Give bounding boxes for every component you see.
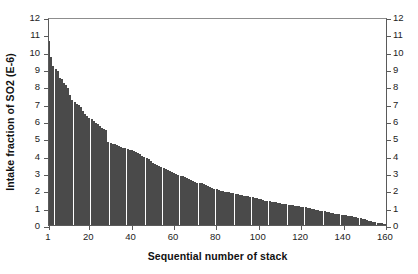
y-axis-left-tick-label: 7 — [2, 100, 40, 110]
x-axis-tick-label: 160 — [377, 232, 393, 242]
y-axis-right-tick — [386, 54, 391, 55]
y-axis-right-tick — [386, 192, 391, 193]
y-axis-right-tick — [386, 140, 391, 141]
y-axis-right-tick-label: 4 — [393, 152, 398, 162]
y-axis-right-tick-label: 11 — [393, 30, 403, 40]
bars-layer — [49, 19, 386, 225]
y-axis-right-tick-label: 5 — [393, 134, 398, 144]
y-axis-right-tick-label: 10 — [393, 48, 404, 58]
y-axis-right-tick-label: 12 — [393, 13, 404, 23]
y-axis-right-tick — [386, 19, 391, 20]
y-axis-right-tick — [386, 71, 391, 72]
y-axis-left-tick — [44, 123, 49, 124]
x-axis-tick — [132, 225, 133, 230]
x-axis-tick-label: 1 — [45, 232, 50, 242]
x-axis-title: Sequential number of stack — [48, 250, 387, 262]
y-axis-right-tick — [386, 210, 391, 211]
y-axis-left-tick-label: 6 — [2, 117, 40, 127]
y-axis-left-tick — [44, 36, 49, 37]
x-axis-tick-label: 120 — [292, 232, 308, 242]
y-axis-right-tick — [386, 175, 391, 176]
x-axis-tick — [89, 225, 90, 230]
y-axis-right-tick — [386, 123, 391, 124]
x-axis-tick — [174, 225, 175, 230]
y-axis-right-tick-label: 1 — [393, 204, 398, 214]
y-axis-right-tick-label: 2 — [393, 186, 398, 196]
x-axis-tick — [216, 225, 217, 230]
y-axis-left-tick-label: 8 — [2, 82, 40, 92]
y-axis-right-tick-label: 3 — [393, 169, 398, 179]
y-axis-left-tick-label: 11 — [2, 30, 40, 40]
y-axis-left-tick — [44, 140, 49, 141]
y-axis-left-tick — [44, 88, 49, 89]
x-axis-tick — [386, 225, 387, 230]
y-axis-left-tick-label: 5 — [2, 134, 40, 144]
y-axis-right-tick-label: 0 — [393, 221, 398, 231]
x-axis-tick — [49, 225, 50, 230]
y-axis-left-tick-label: 0 — [2, 221, 40, 231]
chart-figure: Intake fraction of SO2 (E-6) 01234567891… — [0, 0, 418, 274]
x-axis-tick-label: 80 — [210, 232, 221, 242]
y-axis-right-tick — [386, 106, 391, 107]
y-axis-left-tick — [44, 54, 49, 55]
x-axis-tick-label: 140 — [335, 232, 351, 242]
y-axis-left-tick-label: 9 — [2, 65, 40, 75]
x-axis-tick-label: 20 — [83, 232, 94, 242]
y-axis-right-tick — [386, 88, 391, 89]
y-axis-left-tick — [44, 158, 49, 159]
y-axis-right-tick-label: 8 — [393, 82, 398, 92]
y-axis-left-tick-label: 4 — [2, 152, 40, 162]
x-axis-tick-label: 100 — [250, 232, 266, 242]
x-axis-tick — [259, 225, 260, 230]
y-axis-left-tick — [44, 19, 49, 20]
y-axis-left-tick — [44, 71, 49, 72]
plot-area — [48, 18, 387, 226]
x-axis-tick-labels: 120406080100120140160 — [0, 232, 418, 246]
y-axis-right-tick-label: 6 — [393, 117, 398, 127]
y-axis-left-tick-label: 3 — [2, 169, 40, 179]
y-axis-left-tick — [44, 192, 49, 193]
y-axis-left-tick-label: 1 — [2, 204, 40, 214]
y-axis-left-tick-label: 12 — [2, 13, 40, 23]
y-axis-left-tick — [44, 106, 49, 107]
y-axis-right-tick — [386, 158, 391, 159]
x-axis-tick-label: 60 — [168, 232, 179, 242]
y-axis-right-tick — [386, 36, 391, 37]
y-axis-left-tick-label: 2 — [2, 186, 40, 196]
x-axis-tick — [344, 225, 345, 230]
y-axis-left-tick — [44, 175, 49, 176]
y-axis-left-tick — [44, 210, 49, 211]
x-axis-tick-label: 40 — [125, 232, 136, 242]
y-axis-right-tick-label: 7 — [393, 100, 398, 110]
x-axis-tick — [301, 225, 302, 230]
y-axis-right-tick-label: 9 — [393, 65, 398, 75]
y-axis-left-tick-label: 10 — [2, 48, 40, 58]
